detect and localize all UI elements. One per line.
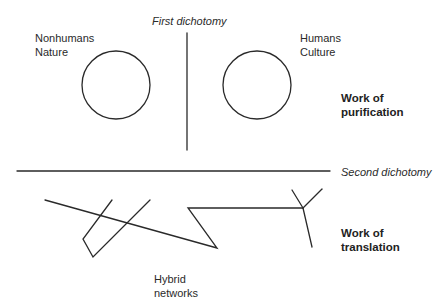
humans-label: Humans [300,31,341,45]
culture-label: Culture [300,45,335,59]
nature-circle [82,51,150,119]
nonhumans-label: Nonhumans [35,31,94,45]
networks-label: networks [154,286,198,300]
work-of-translation-line1: Work of [341,226,384,240]
nature-label: Nature [35,45,68,59]
culture-circle [223,51,291,119]
hybrid-network-lines [45,189,322,257]
work-of-purification-line2: purification [341,105,404,119]
second-dichotomy-label: Second dichotomy [341,165,432,179]
work-of-translation-line2: translation [341,240,400,254]
hybrid-label: Hybrid [154,272,186,286]
first-dichotomy-label: First dichotomy [152,14,227,28]
work-of-purification-line1: Work of [341,91,384,105]
